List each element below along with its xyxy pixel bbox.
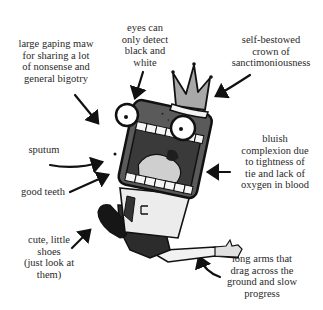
character-illustration xyxy=(0,0,323,310)
arrow-eyes-icon xyxy=(135,72,143,98)
arrow-maw-icon xyxy=(75,95,98,123)
eye-left xyxy=(116,104,138,126)
arrow-teeth-icon xyxy=(70,175,108,192)
crown-icon xyxy=(170,62,213,118)
arrow-crown-icon xyxy=(216,75,250,96)
arrow-sputum-icon xyxy=(50,162,102,167)
arrow-arms-icon xyxy=(199,257,220,277)
eye-right xyxy=(171,116,195,140)
arrow-shoes-icon xyxy=(72,230,90,248)
